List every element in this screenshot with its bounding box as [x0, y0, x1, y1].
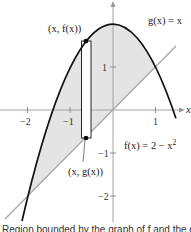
- y-tick-label: −2: [98, 191, 109, 202]
- f-function-label: f(x) = 2 − x2: [124, 138, 177, 152]
- bottom-point-label: (x, g(x)): [68, 166, 103, 178]
- area-between-curves-figure: −2 −1 1 1 −1 −2 x g(x) = x (x, f(x)) (x,…: [0, 0, 191, 232]
- y-axis-arrow-icon: [111, 1, 116, 7]
- f-function-text: f(x) = 2 − x: [124, 140, 173, 152]
- point-bottom-marker: [84, 136, 89, 141]
- point-top-marker: [84, 39, 89, 44]
- representative-rectangle: [82, 41, 92, 138]
- x-tick-label: −1: [63, 116, 74, 127]
- x-tick-label: 1: [153, 116, 158, 127]
- y-tick-label: 1: [102, 62, 107, 73]
- leader-line: [83, 140, 85, 162]
- g-function-label: g(x) = x: [148, 15, 183, 27]
- y-tick-label: −1: [98, 148, 109, 159]
- figure-caption: Region bounded by the graph of f and the…: [2, 224, 191, 232]
- f-function-exponent: 2: [173, 138, 177, 147]
- top-point-label: (x, f(x)): [48, 23, 82, 35]
- x-axis-arrow-icon: [179, 108, 185, 113]
- x-axis-label: x: [185, 104, 191, 115]
- x-tick-label: −2: [20, 116, 31, 127]
